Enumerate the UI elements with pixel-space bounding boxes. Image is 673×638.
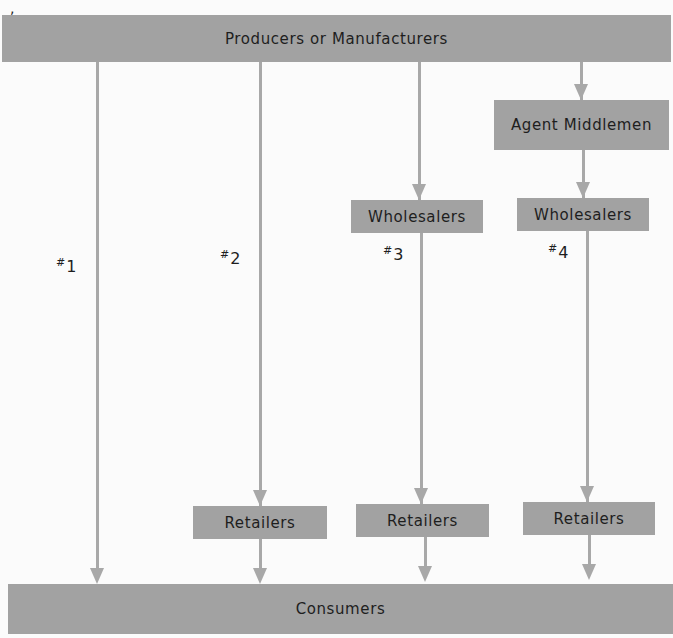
channel-2-arrow-retailers-icon xyxy=(253,490,267,506)
channel-4-line-bottom xyxy=(588,535,591,565)
retailers-node-3: Retailers xyxy=(356,504,489,537)
channel-3-arrow-wholesalers-icon xyxy=(412,184,426,200)
consumers-label: Consumers xyxy=(296,600,386,618)
channel-1-label: #1 xyxy=(56,256,76,276)
channel-3-line-mid xyxy=(420,233,423,504)
channel-3-label: #3 xyxy=(383,244,403,264)
channel-4-arrow-retailers-icon xyxy=(580,486,594,502)
producers-node: Producers or Manufacturers xyxy=(2,15,671,62)
channel-2-line xyxy=(259,62,262,506)
channel-2-label: #2 xyxy=(220,248,240,268)
channel-2-line-bottom xyxy=(259,539,262,569)
channel-4-label: #4 xyxy=(548,242,568,262)
channel-3-line-top xyxy=(418,62,421,200)
channel-4-arrow-consumers-icon xyxy=(582,564,596,580)
channel-3-line-bottom xyxy=(424,537,427,567)
consumers-node: Consumers xyxy=(8,584,673,634)
channel-4-line-mid2 xyxy=(586,231,589,502)
stray-mark: , xyxy=(10,0,14,16)
channel-2-arrow-consumers-icon xyxy=(253,568,267,584)
channel-3-arrow-consumers-icon xyxy=(418,566,432,582)
channel-3-arrow-retailers-icon xyxy=(414,488,428,504)
retailers-node-2: Retailers xyxy=(193,506,327,539)
channel-4-arrow-agent-icon xyxy=(574,84,588,100)
wholesalers-node-3: Wholesalers xyxy=(351,200,483,233)
channel-1-line xyxy=(96,62,99,570)
channel-4-arrow-wholesalers-icon xyxy=(576,182,590,198)
wholesalers-node-4: Wholesalers xyxy=(517,198,649,231)
agent-middlemen-node: Agent Middlemen xyxy=(494,100,669,150)
producers-label: Producers or Manufacturers xyxy=(225,30,448,48)
channel-1-arrow-icon xyxy=(90,568,104,584)
retailers-node-4: Retailers xyxy=(523,502,655,535)
